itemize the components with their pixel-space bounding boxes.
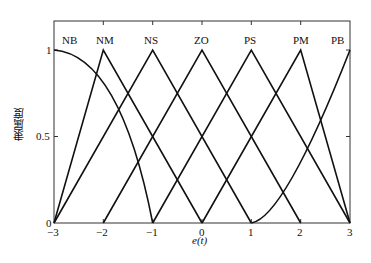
membership-function-chart: NB NM NS ZO PS PM PB −3 −2 −1 0 1 2 3 0 …	[0, 0, 371, 263]
x-tick-1: 1	[248, 226, 254, 238]
x-tick-2: 2	[297, 226, 303, 238]
curve-pm	[202, 50, 350, 223]
label-pm: PM	[293, 34, 309, 46]
y-tick-1: 1	[46, 44, 52, 56]
curve-nm	[54, 50, 202, 223]
membership-curves	[54, 50, 350, 223]
label-nb: NB	[62, 34, 77, 46]
x-tick-neg2: −2	[96, 226, 108, 238]
label-zo: ZO	[194, 34, 209, 46]
label-ns: NS	[144, 34, 158, 46]
x-tick-neg1: −1	[146, 226, 158, 238]
label-pb: PB	[331, 34, 344, 46]
label-nm: NM	[96, 34, 114, 46]
x-axis-label: e(t)	[192, 234, 207, 246]
y-tick-0-5: 0.5	[36, 130, 50, 142]
x-tick-3: 3	[347, 226, 353, 238]
y-tick-0: 0	[46, 217, 52, 229]
label-ps: PS	[244, 34, 256, 46]
y-axis-label: 隶属度	[14, 108, 28, 141]
